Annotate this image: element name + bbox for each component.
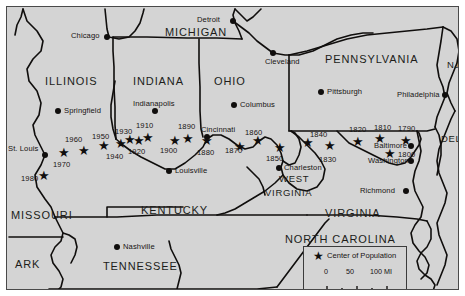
population-center-star-1950: ★ xyxy=(98,139,110,152)
detroit-river xyxy=(235,9,261,21)
mississippi-river xyxy=(23,9,55,217)
population-center-star-1890: ★ xyxy=(182,132,194,145)
city-dot-richmond xyxy=(403,188,409,194)
population-center-star-1850: ★ xyxy=(274,141,286,154)
lake-michigan-shore xyxy=(105,9,144,39)
border-ky-va xyxy=(217,175,283,215)
population-center-star-1860: ★ xyxy=(252,134,264,147)
scale-bar xyxy=(326,279,388,286)
city-dot-louisville xyxy=(166,168,172,174)
scale-tick-50: 50 xyxy=(346,267,354,276)
city-dot-detroit xyxy=(230,18,236,24)
population-center-star-1800: ★ xyxy=(384,147,396,160)
city-dot-st-louis xyxy=(42,152,48,158)
population-center-star-1980: ★ xyxy=(38,169,50,182)
border-ky-tn xyxy=(55,215,307,217)
population-center-star-1970: ★ xyxy=(58,146,70,159)
city-dot-nashville xyxy=(114,244,120,250)
map-legend: ★ Center of Population 0 50 100 MI xyxy=(303,246,407,290)
population-center-star-1960: ★ xyxy=(78,144,90,157)
kanawha-river xyxy=(247,167,265,195)
population-center-star-1820: ★ xyxy=(352,135,364,148)
city-dot-washington xyxy=(408,158,414,164)
city-dot-philadelphia xyxy=(442,92,448,98)
scale-tick-0: 0 xyxy=(324,267,328,276)
population-center-star-1880: ★ xyxy=(201,134,213,147)
city-dot-cleveland xyxy=(270,50,276,56)
new-jersey-coast xyxy=(443,27,459,111)
city-dot-pittsburgh xyxy=(318,89,324,95)
mississippi-lower xyxy=(51,217,63,290)
city-dot-indianapolis xyxy=(152,108,158,114)
population-center-star-1870: ★ xyxy=(234,140,246,153)
legend-star-icon: ★ xyxy=(313,250,324,262)
missouri-bootheel xyxy=(63,233,77,263)
city-dot-columbus xyxy=(231,102,237,108)
border-tn-south xyxy=(49,287,277,289)
population-center-star-1790: ★ xyxy=(400,134,412,147)
border-pa-south xyxy=(289,129,435,131)
legend-title: Center of Population xyxy=(327,251,396,260)
illinois-river-north xyxy=(15,9,23,35)
atlantic-coast-nc xyxy=(417,221,435,290)
city-dot-chicago xyxy=(104,34,110,40)
population-center-star-1900: ★ xyxy=(169,134,181,147)
border-michigan-south xyxy=(113,37,242,39)
population-center-star-1810: ★ xyxy=(374,132,386,145)
population-center-star-1840: ★ xyxy=(302,136,314,149)
border-va-nc xyxy=(307,215,427,221)
population-center-star-1830: ★ xyxy=(324,139,336,152)
city-dot-charleston xyxy=(276,165,282,171)
city-dot-springfield xyxy=(55,108,61,114)
tennessee-river xyxy=(169,241,181,289)
scale-tick-100: 100 MI xyxy=(370,267,392,276)
delaware-river xyxy=(435,27,445,127)
border-in-oh xyxy=(199,39,203,137)
population-center-star-1940: ★ xyxy=(115,137,127,150)
map-frame: ILLINOIS INDIANA OHIO MICHIGAN PENNSYLVA… xyxy=(6,6,459,290)
map-figure: ILLINOIS INDIANA OHIO MICHIGAN PENNSYLVA… xyxy=(0,0,465,296)
